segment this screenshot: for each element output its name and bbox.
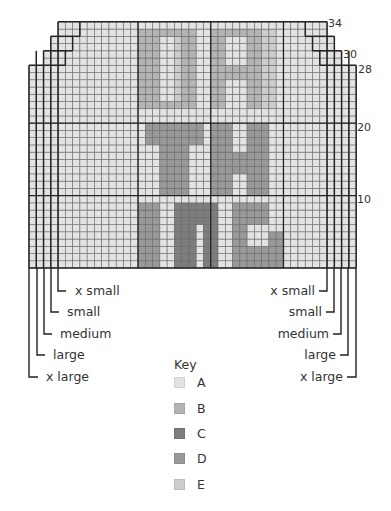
swatch-c-icon [174,428,185,439]
key-item-c: C [174,425,206,441]
size-label-left-x-large: x large [46,370,89,384]
size-label-right-large: large [304,348,336,362]
size-label-right-medium: medium [278,327,329,341]
size-label-right-small: small [289,305,322,319]
row-number-28: 28 [358,64,372,76]
key-item-a: A [174,374,206,390]
size-label-left-large: large [53,348,85,362]
row-number-10: 10 [357,194,371,206]
size-label-right-x-small: x small [270,284,315,298]
swatch-a-icon [174,377,185,388]
row-number-30: 30 [343,49,357,61]
knitting-chart [0,0,391,300]
key-label: D [197,451,207,466]
swatch-e-icon [174,479,185,490]
swatch-b-icon [174,403,185,414]
key-item-e: E [174,476,205,492]
key-item-d: D [174,450,207,466]
key-label: C [197,426,206,441]
swatch-d-icon [174,453,185,464]
key-label: B [197,401,206,416]
row-number-34: 34 [328,18,342,30]
size-label-left-x-small: x small [75,284,120,298]
key-item-b: B [174,400,206,416]
size-label-left-small: small [67,305,100,319]
key-title: Key [174,357,197,372]
row-number-20: 20 [357,122,371,134]
size-label-right-x-large: x large [300,370,343,384]
size-label-left-medium: medium [60,327,111,341]
key-label: A [197,375,206,390]
key-label: E [197,477,205,492]
